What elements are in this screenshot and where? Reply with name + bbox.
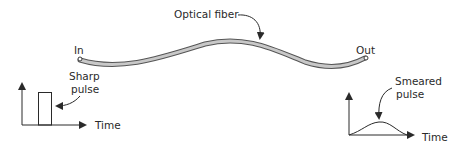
fiber-output-end <box>364 56 368 60</box>
smeared-pulse-label-line1: Smeared <box>395 75 442 87</box>
sharp-pulse-label-line2: pulse <box>71 83 99 95</box>
sharp-pulse-arrow-icon <box>57 96 80 106</box>
smeared-pulse-label-line2: pulse <box>396 88 424 100</box>
fiber-label: Optical fiber <box>174 8 239 20</box>
smeared-pulse-arrow-icon <box>379 88 392 118</box>
in-label: In <box>74 44 84 56</box>
sharp-pulse-label-line1: Sharp <box>69 70 100 82</box>
fiber-label-arrow-icon <box>238 15 260 38</box>
output-time-label: Time <box>421 131 448 143</box>
input-pulse-graph: Time Sharp pulse <box>22 70 121 131</box>
optical-fiber-diagram: Optical fiber In Out Time Sharp pulse Ti… <box>0 0 461 150</box>
output-pulse-graph: Time Smeared pulse <box>349 75 448 143</box>
out-label: Out <box>356 44 375 56</box>
smeared-pulse <box>349 122 407 135</box>
input-time-label: Time <box>94 119 121 131</box>
fiber-input-end <box>78 57 82 61</box>
sharp-pulse <box>39 93 52 126</box>
optical-fiber <box>78 41 368 67</box>
